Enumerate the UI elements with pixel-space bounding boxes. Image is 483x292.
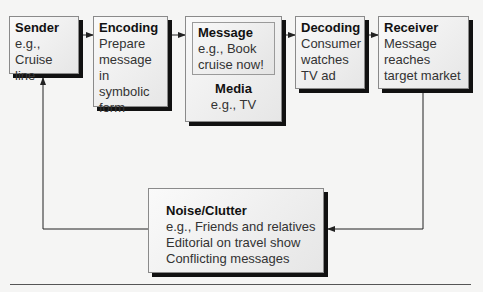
sender-box: Sender e.g., Cruise line [9, 16, 79, 74]
media-section: Media e.g., TV [186, 81, 281, 113]
decoding-title: Decoding [301, 20, 359, 36]
noise-title: Noise/Clutter [166, 203, 318, 219]
receiver-body: Message reaches target market [384, 36, 463, 84]
sender-body: e.g., Cruise line [15, 36, 73, 84]
encoding-box: Encoding Prepare message in symbolic for… [93, 16, 168, 107]
arrow-receiver-to-noise [328, 92, 423, 229]
receiver-box: Receiver Message reaches target market [378, 16, 469, 89]
message-box: Message e.g., Book cruise now! [192, 22, 275, 75]
sender-title: Sender [15, 20, 73, 36]
message-media-box: Message e.g., Book cruise now! Media e.g… [185, 16, 282, 122]
message-title: Message [198, 25, 269, 41]
media-body: e.g., TV [186, 97, 281, 113]
message-body: e.g., Book cruise now! [198, 41, 269, 73]
receiver-title: Receiver [384, 20, 463, 36]
bottom-divider [10, 284, 471, 285]
decoding-box: Decoding Consumer watches TV ad [295, 16, 365, 89]
noise-body: e.g., Friends and relatives Editorial on… [166, 219, 318, 267]
decoding-body: Consumer watches TV ad [301, 36, 359, 84]
noise-clutter-box: Noise/Clutter e.g., Friends and relative… [148, 188, 324, 273]
encoding-body: Prepare message in symbolic form [99, 36, 162, 116]
media-title: Media [186, 81, 281, 97]
encoding-title: Encoding [99, 20, 162, 36]
